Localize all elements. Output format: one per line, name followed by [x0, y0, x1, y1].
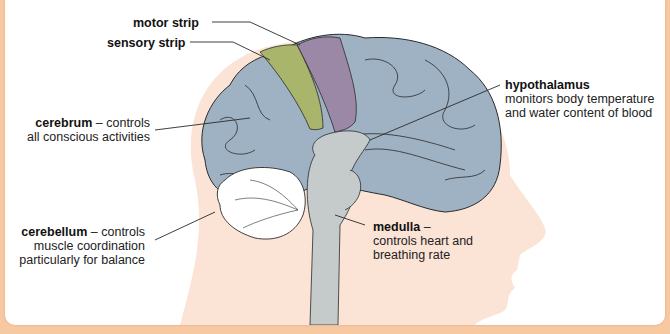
- sensory-strip-label: sensory strip: [107, 36, 186, 50]
- medulla-label: medulla – controls heart and breathing r…: [373, 220, 473, 262]
- cerebellum-label: cerebellum – controls muscle coordinatio…: [5, 225, 145, 267]
- diagram-panel: motor strip sensory strip cerebrum – con…: [5, 0, 665, 325]
- cerebrum-label: cerebrum – controls all conscious activi…: [25, 116, 150, 144]
- brain-illustration: [5, 0, 665, 325]
- motor-strip-label: motor strip: [133, 16, 199, 30]
- hypothalamus-label: hypothalamus monitors body temperature a…: [505, 78, 654, 120]
